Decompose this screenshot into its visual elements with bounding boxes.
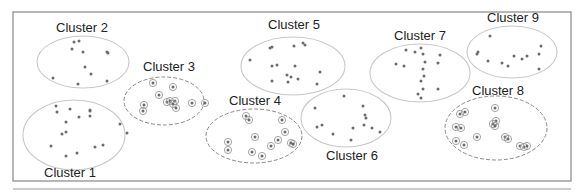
data-point xyxy=(191,102,194,105)
cluster-label: Cluster 5 xyxy=(268,17,320,32)
data-point xyxy=(460,127,463,130)
cluster-label: Cluster 1 xyxy=(44,165,96,180)
data-point xyxy=(437,62,440,65)
data-point xyxy=(455,140,458,143)
data-point xyxy=(286,74,289,77)
data-point xyxy=(319,71,322,74)
data-point xyxy=(276,64,279,67)
data-point xyxy=(316,126,319,129)
data-point xyxy=(65,131,68,134)
data-point xyxy=(314,107,317,110)
data-point xyxy=(143,104,146,107)
data-point xyxy=(494,125,497,128)
cluster-label: Cluster 6 xyxy=(326,148,378,163)
data-point xyxy=(304,44,307,47)
data-point xyxy=(365,117,368,120)
data-point xyxy=(77,83,80,86)
data-point xyxy=(476,136,479,139)
cluster-6: Cluster 6 xyxy=(301,89,391,163)
data-point xyxy=(379,131,382,134)
data-point xyxy=(420,80,423,83)
data-point xyxy=(513,55,516,58)
cluster-2: Cluster 2 xyxy=(37,20,129,88)
cluster-5: Cluster 5 xyxy=(241,17,345,95)
data-point xyxy=(321,124,324,127)
data-point xyxy=(290,76,293,79)
data-point xyxy=(287,81,290,84)
data-point xyxy=(172,86,175,89)
data-point xyxy=(343,95,346,98)
data-point xyxy=(73,41,76,44)
data-point xyxy=(422,68,425,71)
data-point xyxy=(464,111,467,114)
data-point xyxy=(501,62,504,65)
data-point xyxy=(350,139,353,142)
data-point xyxy=(487,60,490,63)
data-point xyxy=(422,88,425,91)
data-point xyxy=(65,155,68,158)
data-point xyxy=(316,83,319,86)
data-point xyxy=(119,123,122,126)
data-point xyxy=(521,58,524,61)
cluster-1: Cluster 1 xyxy=(23,100,129,180)
data-point xyxy=(281,119,284,122)
data-point xyxy=(463,144,466,147)
data-point xyxy=(494,107,497,110)
data-point xyxy=(270,145,273,148)
data-point xyxy=(227,149,230,152)
cluster-3: Cluster 3 xyxy=(124,59,209,125)
cluster-8: Cluster 8 xyxy=(445,83,547,160)
data-point xyxy=(423,75,426,78)
data-point xyxy=(439,54,442,57)
data-point xyxy=(403,65,406,68)
data-point xyxy=(395,63,398,66)
data-point xyxy=(405,49,408,52)
data-point xyxy=(363,124,366,127)
data-point xyxy=(489,35,492,38)
data-point xyxy=(459,113,462,116)
cluster-diagram: Cluster 1Cluster 2Cluster 3Cluster 4Clus… xyxy=(0,0,581,192)
data-point xyxy=(293,45,296,48)
data-point xyxy=(476,53,479,56)
data-point xyxy=(56,111,59,114)
data-point xyxy=(424,61,427,64)
data-point xyxy=(94,146,97,149)
data-point xyxy=(292,143,295,146)
data-point xyxy=(89,110,92,113)
cluster-7: Cluster 7 xyxy=(370,28,470,102)
data-point xyxy=(352,127,355,130)
data-point xyxy=(271,46,274,49)
data-point xyxy=(507,65,510,68)
data-point xyxy=(89,115,92,118)
data-point xyxy=(332,133,335,136)
cluster-boundary xyxy=(23,100,125,170)
cluster-boundary xyxy=(370,44,470,102)
data-point xyxy=(71,48,74,51)
cluster-boundary xyxy=(467,26,557,78)
data-point xyxy=(526,145,529,148)
data-point xyxy=(507,138,510,141)
data-point xyxy=(364,114,367,117)
cluster-label: Cluster 3 xyxy=(143,59,195,74)
data-point xyxy=(50,145,53,148)
data-point xyxy=(126,132,129,135)
data-point xyxy=(69,108,72,111)
data-point xyxy=(158,94,161,97)
data-point xyxy=(52,77,55,80)
data-point xyxy=(414,51,417,54)
cluster-label: Cluster 4 xyxy=(229,93,281,108)
data-point xyxy=(84,66,87,69)
data-point xyxy=(437,88,440,91)
data-point xyxy=(422,53,425,56)
data-point xyxy=(254,136,257,139)
data-point xyxy=(61,133,64,136)
data-point xyxy=(294,65,297,68)
data-point xyxy=(371,127,374,130)
data-point xyxy=(420,47,423,50)
cluster-label: Cluster 8 xyxy=(472,83,524,98)
cluster-boundary xyxy=(37,36,129,88)
data-point xyxy=(362,105,365,108)
data-point xyxy=(82,51,85,54)
data-point xyxy=(102,144,105,147)
cluster-4: Cluster 4 xyxy=(206,93,302,163)
